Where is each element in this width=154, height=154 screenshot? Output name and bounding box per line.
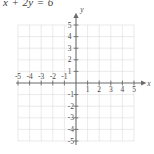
y-tick-label: -4 xyxy=(68,125,74,134)
y-tick-label: -5 xyxy=(68,137,74,146)
figure-container: x + 2y = 6 xyxy=(0,0,154,154)
coordinate-plane: -5 -4 -3 -2 -1 1 2 3 4 5 5 4 3 2 1 -1 -2… xyxy=(0,0,154,154)
axis-lines xyxy=(16,13,147,145)
x-tick-label: 2 xyxy=(97,85,101,94)
y-tick-label: 3 xyxy=(68,44,72,53)
x-tick-label: 1 xyxy=(86,85,90,94)
x-tick-label: 4 xyxy=(121,85,125,94)
y-tick-label: -3 xyxy=(68,113,74,122)
y-tick-label: 4 xyxy=(68,32,72,41)
y-tick-label: -1 xyxy=(68,90,74,99)
y-axis-arrow xyxy=(73,13,78,18)
y-tick-label: 5 xyxy=(68,21,72,30)
x-tick-label: 3 xyxy=(109,85,113,94)
y-tick-label: -2 xyxy=(68,102,74,111)
y-tick-label: 2 xyxy=(68,55,72,64)
y-axis-label: y xyxy=(79,5,84,14)
x-tick-label: -5 xyxy=(15,72,21,81)
x-tick-label: -4 xyxy=(26,72,32,81)
x-tick-label: -2 xyxy=(50,72,56,81)
x-tick-label: 5 xyxy=(132,85,136,94)
x-axis-arrow xyxy=(141,80,147,85)
y-tick-label: 1 xyxy=(68,67,72,76)
x-tick-label: -3 xyxy=(38,72,44,81)
x-axis-label: x xyxy=(146,79,151,88)
